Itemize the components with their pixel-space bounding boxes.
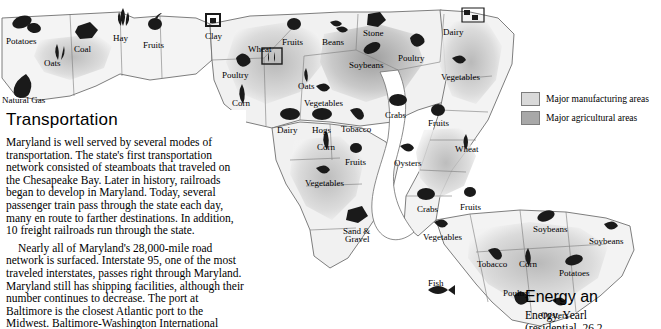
map-label: Hay	[113, 33, 128, 43]
map-label: Fruits	[460, 202, 481, 212]
map-label: Fruits	[345, 157, 366, 167]
map-label: Crabs	[417, 204, 438, 214]
map-label: Vegetables	[305, 178, 344, 188]
map-label: Oats	[298, 81, 315, 91]
map-label: Corn	[232, 98, 250, 108]
map-label: Potatoes	[559, 268, 590, 278]
article-paragraph-2: Nearly all of Maryland's 28,000-mile roa…	[6, 242, 246, 329]
map-label: Oysters	[394, 158, 422, 168]
map-label: Oats	[44, 58, 61, 68]
map-label: Crabs	[385, 110, 406, 120]
map-label: Tobacco	[477, 259, 507, 269]
energy-paragraph-1: Energy. Yearl	[525, 309, 661, 322]
map-label: Tobacco	[341, 124, 371, 134]
map-label: Fruits	[282, 37, 303, 47]
legend-item-manufacturing: Major manufacturing areas	[521, 92, 661, 106]
legend-swatch-agricultural	[521, 111, 540, 125]
map-label: Fruits	[143, 40, 164, 50]
map-label: Soybeans	[533, 224, 568, 234]
energy-paragraph-2: (residential, 26.2	[525, 322, 661, 329]
article-paragraph-1: Maryland is well served by several modes…	[6, 136, 246, 237]
map-label: Wheat	[455, 144, 478, 154]
map-label: Corn	[317, 142, 335, 152]
map-label: Vegetables	[441, 72, 480, 82]
map-label: Corn	[519, 259, 537, 269]
legend-swatch-manufacturing	[521, 92, 540, 106]
legend-label-agricultural: Major agricultural areas	[546, 113, 637, 123]
page-root: Potatoes Coal Oats Natural Gas Hay Fruit…	[0, 0, 661, 329]
map-label: Soybeans	[349, 60, 384, 70]
map-label: Stone	[363, 28, 384, 38]
map-label: Dairy	[277, 125, 298, 135]
energy-article: Energy an Energy. Yearl (residential, 26…	[525, 288, 661, 329]
map-label: Hogs	[312, 125, 331, 135]
map-label: Clay	[205, 31, 222, 41]
map-label: Soybeans	[589, 236, 624, 246]
map-label: Wheat	[248, 44, 271, 54]
transportation-article: Transportation Maryland is well served b…	[6, 110, 246, 329]
map-label: Coal	[74, 44, 91, 54]
map-label: Beans	[322, 37, 344, 47]
map-label: Poultry	[222, 70, 249, 80]
energy-title: Energy an	[525, 288, 661, 306]
legend-item-agricultural: Major agricultural areas	[521, 111, 661, 125]
map-label: Dairy	[443, 27, 464, 37]
map-label: Fruits	[428, 118, 449, 128]
map-label: Vegetables	[304, 98, 343, 108]
map-label: Fish	[428, 278, 444, 288]
map-label: Gravel	[345, 234, 370, 244]
map-legend: Major manufacturing areas Major agricult…	[521, 92, 661, 130]
article-title: Transportation	[6, 110, 246, 130]
legend-label-manufacturing: Major manufacturing areas	[546, 94, 649, 104]
map-label: Vegetables	[423, 232, 462, 242]
map-label: Potatoes	[6, 36, 37, 46]
map-label: Natural Gas	[2, 95, 45, 105]
map-label: Poultry	[398, 53, 425, 63]
